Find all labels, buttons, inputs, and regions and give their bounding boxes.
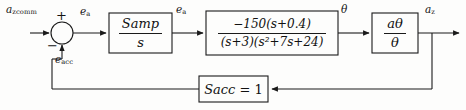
- block-amplifier-content: Samp s: [109, 13, 172, 53]
- label-input-command: azcomm: [6, 4, 37, 16]
- accelerometer-equation: Sacc = 1: [204, 82, 263, 97]
- block-airframe-content: −150(s+0.4) (s+3)(s²+7s+24): [206, 11, 338, 55]
- airframe-denominator: (s+3)(s²+7s+24): [218, 35, 327, 49]
- accel-ratio-numerator: aθ: [384, 16, 406, 31]
- label-feedback-signal: eacc: [55, 54, 73, 66]
- fraction-bar: [218, 33, 327, 34]
- accel-ratio-denominator: θ: [388, 35, 402, 50]
- label-output-accel: az: [425, 4, 435, 16]
- airframe-numerator: −150(s+0.4): [230, 17, 314, 31]
- amplifier-denominator: s: [134, 35, 147, 50]
- block-accel-ratio-content: aθ θ: [372, 13, 418, 53]
- fraction-bar: [384, 33, 406, 34]
- label-minus-sign: −: [47, 39, 58, 52]
- label-theta: θ: [341, 4, 347, 15]
- block-accelerometer-content: Sacc = 1: [199, 76, 268, 102]
- fraction-bar: [119, 33, 162, 34]
- block-diagram: azcomm + − ea ea θ az eacc Samp s −150(s…: [0, 0, 466, 110]
- label-error-amp-1: ea: [80, 6, 90, 18]
- label-plus-sign: +: [56, 9, 67, 22]
- label-error-amp-2: ea: [176, 4, 186, 16]
- amplifier-numerator: Samp: [119, 16, 162, 31]
